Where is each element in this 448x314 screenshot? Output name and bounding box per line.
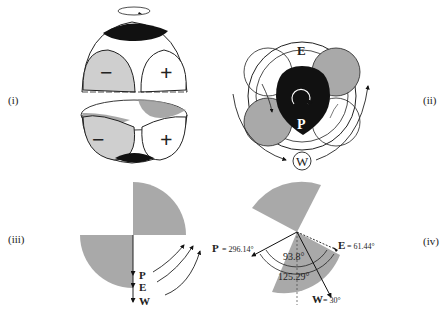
- label-e: E: [297, 43, 306, 58]
- gray-sector: [252, 182, 321, 232]
- panel-label-i: (i): [8, 94, 19, 107]
- label-w: W: [296, 154, 309, 169]
- panel-i-sphere: − + − +: [81, 7, 187, 163]
- label-w: W: [312, 293, 323, 305]
- negative-sign: −: [100, 60, 113, 85]
- label-p: P: [139, 269, 146, 281]
- north-cap: [103, 23, 168, 41]
- panel-ii-diagram: P E W: [233, 42, 368, 170]
- label-e: E: [338, 239, 345, 251]
- negative-sign: −: [92, 127, 105, 152]
- label-w: W: [139, 295, 150, 307]
- angle-inner: 93.8°: [283, 251, 305, 262]
- rotation-arrow-icon: [118, 7, 150, 15]
- diagram-canvas: − + − + (i) P E W (ii) P E W: [0, 0, 448, 314]
- panel-iv-diagram: 93.8° 125.29° P = 296.14° E = 61.44° W =…: [212, 182, 375, 305]
- positive-sign: +: [160, 127, 173, 152]
- e-value: = 61.44°: [347, 242, 375, 251]
- label-p: P: [212, 242, 219, 254]
- w-value: = 30°: [323, 296, 341, 305]
- angle-outer: 125.29°: [278, 271, 310, 282]
- label-e: E: [139, 281, 146, 293]
- label-p: P: [297, 117, 306, 132]
- p-value: = 296.14°: [222, 245, 254, 254]
- panel-iii-diagram: P E W: [80, 182, 200, 307]
- panel-label-iii: (iii): [8, 233, 25, 246]
- gray-quadrant: [133, 182, 186, 235]
- gray-quadrant: [80, 235, 133, 288]
- positive-sign: +: [160, 60, 173, 85]
- panel-label-iv: (iv): [423, 235, 439, 248]
- gray-sector: [272, 232, 340, 293]
- panel-label-ii: (ii): [423, 94, 437, 107]
